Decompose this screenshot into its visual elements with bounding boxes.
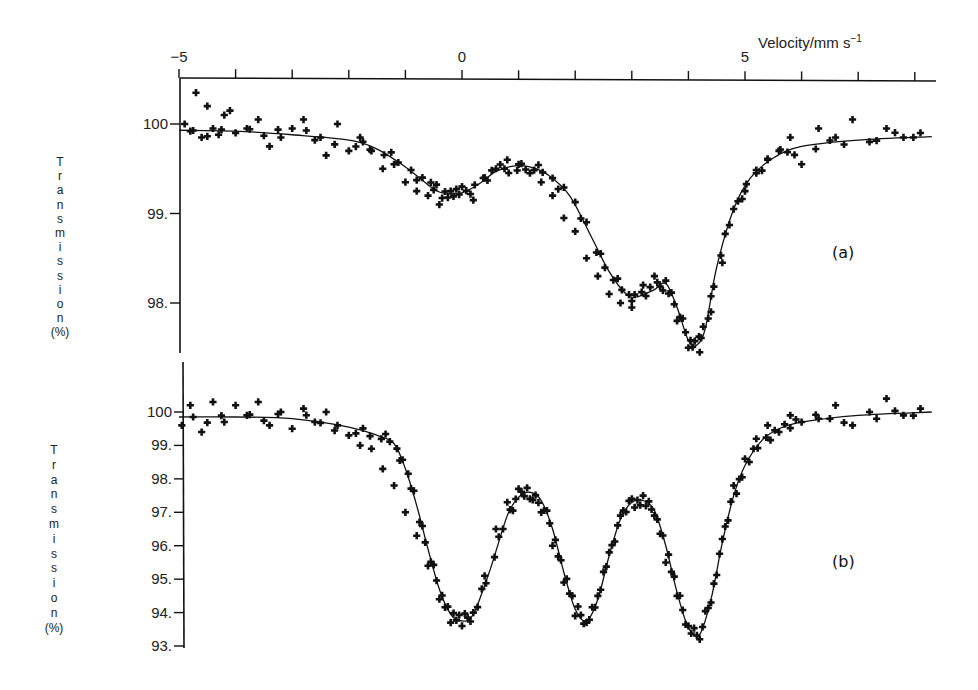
data-point-marker	[883, 125, 890, 132]
data-point-marker	[187, 402, 194, 409]
data-point-marker	[662, 559, 669, 566]
data-point-marker	[198, 428, 205, 435]
data-point-marker	[840, 419, 847, 426]
y-title-letter: T	[56, 155, 64, 169]
data-point-marker	[504, 156, 511, 163]
data-point-marker	[379, 165, 386, 172]
y-title-letter: a	[51, 473, 58, 487]
data-point-marker	[300, 405, 307, 412]
panel-b-y-axis-title: Transmission(%)	[45, 443, 64, 635]
data-point-marker	[192, 89, 199, 96]
panel-a-fit-curve	[179, 130, 932, 346]
data-point-marker	[764, 422, 771, 429]
y-title-letter: m	[55, 226, 65, 240]
y-tick-label: 98.	[151, 470, 172, 487]
data-point-marker	[260, 417, 267, 424]
panel-a-y-ticks: 10099.98.	[143, 115, 180, 311]
data-point-marker	[323, 408, 330, 415]
panel-b-data-points	[178, 395, 924, 643]
data-point-marker	[798, 161, 805, 168]
data-point-marker	[787, 134, 794, 141]
y-title-letter: s	[51, 547, 57, 561]
panel-b-label: (b)	[832, 552, 855, 571]
panel-a: 10099.98. Transmission(%) (a)	[51, 78, 932, 356]
data-point-marker	[535, 161, 542, 168]
y-title-letter: s	[57, 212, 63, 226]
data-point-marker	[538, 179, 545, 186]
data-point-marker	[352, 430, 359, 437]
data-point-marker	[204, 103, 211, 110]
mossbauer-figure: −505 Velocity/mm s−1 10099.98. Transmiss…	[0, 0, 978, 690]
data-point-marker	[209, 398, 216, 405]
data-point-marker	[849, 116, 856, 123]
panel-b: 10099.98.97.96.95.94.93. Transmission(%)…	[45, 362, 932, 654]
y-title-letter: n	[51, 487, 58, 501]
y-title-letter: T	[50, 443, 58, 457]
data-point-marker	[849, 422, 856, 429]
data-point-marker	[277, 134, 284, 141]
data-point-marker	[753, 435, 760, 442]
data-point-marker	[791, 151, 798, 158]
data-point-marker	[303, 127, 310, 134]
data-point-marker	[334, 120, 341, 127]
data-point-marker	[255, 398, 262, 405]
data-point-marker	[424, 192, 431, 199]
y-title-letter: i	[59, 240, 62, 254]
data-point-marker	[266, 143, 273, 150]
y-title-letter: s	[57, 254, 63, 268]
y-title-letter: m	[49, 517, 59, 531]
y-title-letter: s	[51, 561, 57, 575]
data-point-marker	[289, 425, 296, 432]
y-tick-label: 100	[147, 403, 172, 420]
data-point-marker	[696, 349, 703, 356]
data-point-marker	[331, 141, 338, 148]
data-point-marker	[594, 273, 601, 280]
data-point-marker	[917, 405, 924, 412]
y-tick-label: 97.	[151, 503, 172, 520]
x-axis-tick-labels: −505	[170, 48, 749, 65]
data-point-marker	[232, 402, 239, 409]
data-point-marker	[289, 125, 296, 132]
data-point-marker	[226, 107, 233, 114]
x-axis-title: Velocity/mm s−1	[758, 33, 862, 51]
data-point-marker	[583, 255, 590, 262]
x-axis-line	[180, 78, 936, 81]
panel-a-data-points	[181, 89, 924, 356]
y-tick-label: 100	[143, 115, 168, 132]
data-point-marker	[492, 525, 499, 532]
y-title-letter: i	[59, 283, 62, 297]
y-tick-label: 95.	[151, 570, 172, 587]
y-tick-label: 99.	[151, 436, 172, 453]
data-point-marker	[640, 492, 647, 499]
y-title-unit: (%)	[51, 325, 70, 339]
panel-b-fit-curve	[179, 412, 932, 636]
data-point-marker	[357, 442, 364, 449]
data-point-marker	[221, 111, 228, 118]
data-point-marker	[883, 395, 890, 402]
data-point-marker	[917, 129, 924, 136]
data-point-marker	[832, 402, 839, 409]
data-point-marker	[873, 415, 880, 422]
y-title-letter: a	[57, 183, 64, 197]
panel-b-y-ticks: 10099.98.97.96.95.94.93.	[147, 403, 184, 654]
data-point-marker	[274, 126, 281, 133]
y-title-letter: s	[57, 269, 63, 283]
data-point-marker	[523, 484, 530, 491]
data-point-marker	[497, 161, 504, 168]
y-tick-label: 96.	[151, 537, 172, 554]
data-point-marker	[345, 432, 352, 439]
data-point-marker	[512, 495, 519, 502]
y-title-unit: (%)	[45, 621, 64, 635]
panel-a-y-axis-title: Transmission(%)	[51, 155, 70, 339]
y-tick-label: 98.	[147, 294, 168, 311]
data-point-marker	[390, 482, 397, 489]
data-point-marker	[218, 412, 225, 419]
data-point-marker	[504, 499, 511, 506]
data-point-marker	[402, 509, 409, 516]
data-point-marker	[628, 304, 635, 311]
y-tick-label: 93.	[151, 637, 172, 654]
data-point-marker	[300, 116, 307, 123]
data-point-marker	[178, 422, 185, 429]
data-point-marker	[651, 273, 658, 280]
panel-a-label: (a)	[832, 243, 854, 262]
